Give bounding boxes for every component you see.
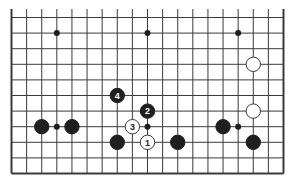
black-stone-move-4: 4 — [110, 88, 124, 102]
move-number-label: 2 — [145, 106, 150, 116]
white-stone — [246, 57, 260, 71]
move-number-label: 1 — [145, 138, 150, 148]
stone-disc — [35, 120, 49, 134]
stone-disc — [171, 135, 185, 149]
star-point — [235, 124, 241, 130]
stone-disc — [110, 135, 124, 149]
star-point — [145, 124, 151, 130]
star-point — [145, 30, 151, 36]
black-stone — [216, 120, 230, 134]
stone-disc — [246, 57, 260, 71]
star-point — [54, 124, 60, 130]
white-stone-move-3: 3 — [125, 120, 139, 134]
stone-disc — [246, 135, 260, 149]
black-stone — [110, 135, 124, 149]
stone-disc — [65, 120, 79, 134]
star-point — [54, 30, 60, 36]
white-stone-move-1: 1 — [140, 135, 154, 149]
black-stone — [35, 120, 49, 134]
go-board-diagram: 1234 — [0, 0, 292, 185]
move-number-label: 3 — [130, 122, 135, 132]
star-point — [235, 30, 241, 36]
black-stone — [65, 120, 79, 134]
stone-disc — [216, 120, 230, 134]
move-number-label: 4 — [115, 91, 120, 101]
black-stone — [171, 135, 185, 149]
stone-disc — [246, 104, 260, 118]
black-stone — [246, 135, 260, 149]
white-stone — [246, 104, 260, 118]
black-stone-move-2: 2 — [140, 104, 154, 118]
